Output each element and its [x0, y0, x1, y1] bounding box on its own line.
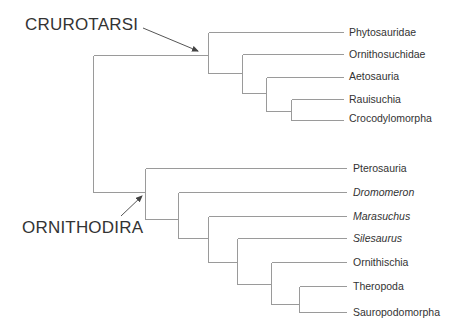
ornithodira-arrow-icon — [121, 196, 142, 216]
clade-label-crurotarsi: CRUROTARSI — [25, 15, 138, 35]
crurotarsi-clade — [209, 33, 345, 121]
taxon-label-dromomeron: Dromomeron — [353, 186, 414, 198]
taxon-label-pterosauria: Pterosauria — [353, 162, 407, 174]
root-node — [94, 56, 209, 193]
taxon-label-sauropodomorpha: Sauropodomorpha — [353, 306, 440, 318]
taxon-label-aetosauria: Aetosauria — [349, 70, 399, 82]
taxon-label-marasuchus: Marasuchus — [353, 210, 410, 222]
taxon-label-rauisuchia: Rauisuchia — [349, 93, 401, 105]
taxon-label-ornithischia: Ornithischia — [353, 256, 408, 268]
taxon-label-phytosauridae: Phytosauridae — [349, 26, 416, 38]
crurotarsi-arrow-icon — [143, 28, 198, 51]
taxon-label-theropoda: Theropoda — [353, 280, 404, 292]
taxon-label-crocodylomorpha: Crocodylomorpha — [349, 112, 432, 124]
clade-label-ornithodira: ORNITHODIRA — [22, 218, 143, 238]
taxon-label-silesaurus: Silesaurus — [353, 232, 402, 244]
taxon-label-ornithosuchidae: Ornithosuchidae — [349, 48, 425, 60]
ornithodira-clade — [146, 169, 348, 313]
